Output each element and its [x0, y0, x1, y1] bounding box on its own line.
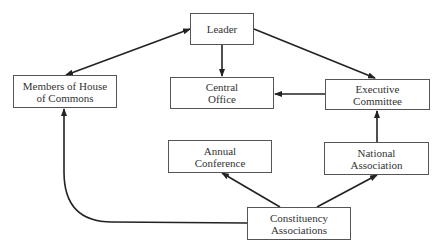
- node-label: Associations: [271, 224, 327, 236]
- node-label: Committee: [353, 95, 402, 107]
- node-label: Executive: [356, 83, 400, 95]
- node-national-association: National Association: [324, 142, 429, 175]
- node-constituency-associations: Constituency Associations: [247, 207, 351, 240]
- node-executive-committee: Executive Committee: [325, 79, 430, 110]
- node-label: of Commons: [36, 92, 93, 104]
- node-label: Members of House: [23, 80, 107, 92]
- node-members-of-house-of-commons: Members of House of Commons: [13, 75, 117, 108]
- node-label: Annual: [204, 145, 236, 157]
- node-label: Central: [206, 81, 238, 93]
- node-label: Office: [208, 93, 236, 105]
- node-leader: Leader: [190, 13, 254, 45]
- node-annual-conference: Annual Conference: [168, 140, 272, 173]
- node-central-office: Central Office: [170, 77, 274, 109]
- edge-constituency-national: [317, 175, 377, 207]
- node-label: Constituency: [270, 212, 328, 224]
- node-label: Conference: [195, 157, 246, 169]
- edge-leader-members: [66, 29, 190, 75]
- node-label: National: [358, 147, 396, 159]
- node-label: Leader: [207, 23, 238, 35]
- node-label: Association: [351, 159, 403, 171]
- edge-leader-executive: [254, 29, 375, 78]
- edge-constituency-annual: [222, 173, 280, 207]
